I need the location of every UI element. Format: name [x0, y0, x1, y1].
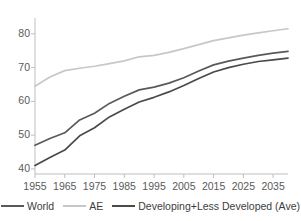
- y-axis-tick-label: 60: [6, 94, 30, 106]
- legend-line-swatch-icon: [63, 205, 86, 207]
- legend-item-1[interactable]: AE: [63, 200, 103, 212]
- y-axis-tick-label: 50: [6, 128, 30, 140]
- legend-item-label: Developing+Less Developed (Ave): [138, 200, 300, 212]
- legend-item-label: World: [27, 200, 54, 212]
- legend-line-swatch-icon: [112, 205, 135, 207]
- x-axis-tick-label: 2035: [256, 180, 290, 192]
- legend-line-swatch-icon: [1, 205, 24, 207]
- y-axis-tick-label: 80: [6, 27, 30, 39]
- y-axis-tick-label: 70: [6, 61, 30, 73]
- series-line-0: [35, 51, 288, 145]
- legend-item-0[interactable]: World: [1, 200, 54, 212]
- legend-item-2[interactable]: Developing+Less Developed (Ave): [112, 200, 300, 212]
- series-line-2: [35, 58, 288, 165]
- line-chart: 4050607080 19551965197519851995200520152…: [0, 0, 301, 221]
- chart-legend: WorldAEDeveloping+Less Developed (Ave): [0, 197, 301, 215]
- legend-item-label: AE: [89, 200, 103, 212]
- y-axis-tick-label: 40: [6, 162, 30, 174]
